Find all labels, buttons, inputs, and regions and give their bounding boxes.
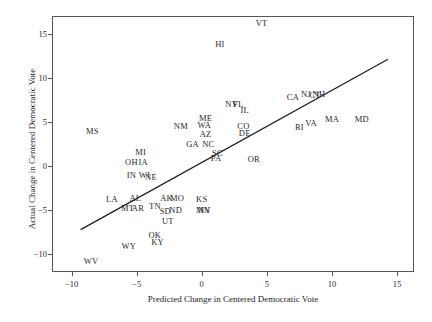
- x-tick-label: 10: [328, 279, 337, 289]
- x-tick-label: 15: [393, 279, 402, 289]
- data-point-label: MO: [170, 194, 184, 203]
- x-tick-mark: [72, 272, 73, 276]
- data-point-label: MD: [355, 115, 369, 124]
- y-tick-mark: [48, 122, 52, 123]
- data-point-label: KY: [151, 238, 164, 247]
- data-point-label: MI: [135, 148, 146, 157]
- data-point-label: UT: [162, 217, 174, 226]
- data-point-label: NV: [198, 206, 211, 215]
- data-point-label: AL: [129, 194, 141, 203]
- x-tick-label: 0: [200, 279, 204, 289]
- data-point-label: VA: [305, 119, 317, 128]
- y-tick-mark: [48, 254, 52, 255]
- data-point-label: AR: [132, 204, 144, 213]
- y-tick-label: −5: [38, 205, 47, 215]
- x-tick-label: −5: [132, 279, 141, 289]
- y-tick-label: 10: [39, 73, 48, 83]
- y-tick-label: 5: [43, 117, 47, 127]
- data-point-label: ND: [169, 206, 182, 215]
- y-tick-label: 15: [39, 29, 48, 39]
- data-point-label: PA: [211, 154, 222, 163]
- data-point-label: IL: [241, 106, 249, 115]
- data-point-label: IN: [127, 171, 136, 180]
- x-tick-mark: [267, 272, 268, 276]
- x-tick-mark: [137, 272, 138, 276]
- data-point-label: LA: [106, 194, 118, 203]
- data-point-label: CT: [309, 90, 320, 99]
- data-point-label: GA: [186, 140, 199, 149]
- data-point-label: OH: [125, 157, 138, 166]
- y-tick-mark: [48, 34, 52, 35]
- scatter-plot-figure: VTHINHNJCTCANVFLILMEMDMAVAWANMCORIDEAZGA…: [0, 0, 432, 322]
- data-point-label: DE: [239, 129, 251, 138]
- y-tick-mark: [48, 78, 52, 79]
- data-point-label: MS: [86, 127, 99, 136]
- data-point-label: OR: [248, 155, 260, 164]
- data-point-label: AZ: [200, 130, 212, 139]
- x-tick-mark: [397, 272, 398, 276]
- x-tick-mark: [202, 272, 203, 276]
- data-point-label: NM: [174, 122, 188, 131]
- data-point-label: CA: [287, 93, 299, 102]
- y-axis-title: Actual Change in Centered Democratic Vot…: [27, 21, 37, 277]
- data-point-label: HI: [215, 40, 224, 49]
- data-point-label: RI: [295, 123, 304, 132]
- data-point-label: WY: [122, 241, 137, 250]
- x-tick-label: −10: [65, 279, 78, 289]
- data-point-label: WV: [84, 256, 99, 265]
- data-point-label: NE: [145, 172, 157, 181]
- data-point-label: VT: [256, 19, 268, 28]
- x-axis-title: Predicted Change in Centered Democratic …: [52, 294, 414, 304]
- plot-frame: [52, 16, 414, 272]
- data-point-label: KS: [196, 194, 207, 203]
- y-tick-label: 0: [43, 161, 47, 171]
- x-tick-mark: [332, 272, 333, 276]
- data-point-label: IA: [138, 157, 147, 166]
- y-tick-mark: [48, 166, 52, 167]
- x-tick-label: 5: [265, 279, 269, 289]
- data-point-label: MA: [325, 115, 339, 124]
- y-tick-mark: [48, 210, 52, 211]
